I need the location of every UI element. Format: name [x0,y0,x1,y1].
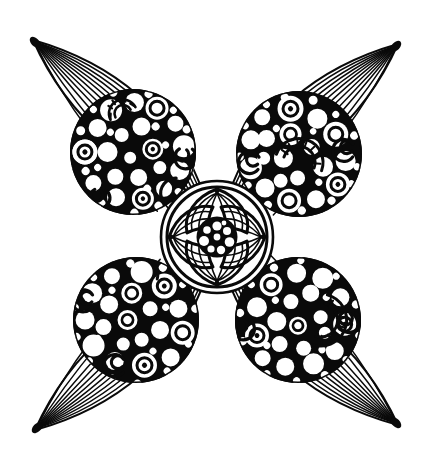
artboard [0,0,434,468]
center-medallion [161,181,273,293]
mandala-line-art [0,0,434,468]
